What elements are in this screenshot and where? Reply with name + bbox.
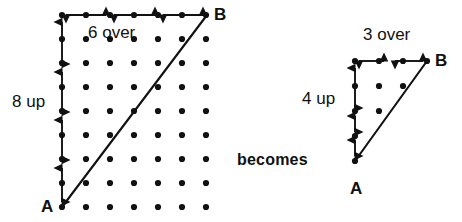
lattice-dot (83, 180, 89, 186)
lattice-dot (179, 204, 185, 210)
lattice-dot (352, 58, 358, 64)
right-point-a-label: A (350, 180, 362, 197)
lattice-dot (131, 84, 137, 90)
lattice-dot (107, 156, 113, 162)
lattice-dot (179, 36, 185, 42)
lattice-dot (83, 84, 89, 90)
lattice-dot (155, 204, 161, 210)
lattice-dot (203, 84, 209, 90)
lattice-dot (352, 108, 358, 114)
lattice-dot (179, 84, 185, 90)
lattice-dot (155, 156, 161, 162)
lattice-dot (203, 180, 209, 186)
lattice-dot (107, 108, 113, 114)
lattice-dot (203, 156, 209, 162)
lattice-dot (131, 60, 137, 66)
lattice-dot (83, 156, 89, 162)
lattice-dot (376, 108, 382, 114)
lattice-dot (203, 108, 209, 114)
lattice-dot (155, 60, 161, 66)
becomes-label: becomes (237, 152, 308, 168)
right-rise-label: 4 up (302, 90, 335, 107)
left-point-b-label: B (214, 6, 226, 23)
lattice-dot (155, 36, 161, 42)
lattice-dot (155, 12, 161, 18)
lattice-dot (352, 133, 358, 139)
lattice-dot (203, 132, 209, 138)
lattice-dot (155, 132, 161, 138)
lattice-dot (107, 132, 113, 138)
lattice-dot (107, 180, 113, 186)
lattice-dot (203, 60, 209, 66)
lattice-dot (400, 83, 406, 89)
lattice-dot (155, 84, 161, 90)
right-point-b-label: B (435, 52, 447, 69)
lattice-dot (376, 83, 382, 89)
lattice-dot (59, 12, 65, 18)
lattice-dot (83, 132, 89, 138)
lattice-dot (179, 156, 185, 162)
lattice-dot (107, 84, 113, 90)
right-run-label: 3 over (363, 26, 410, 43)
lattice-dot (131, 180, 137, 186)
lattice-dot (83, 204, 89, 210)
lattice-dot (203, 204, 209, 210)
lattice-dot (179, 108, 185, 114)
lattice-dot (83, 60, 89, 66)
lattice-dot (107, 12, 113, 18)
lattice-dot (107, 60, 113, 66)
lattice-dot (179, 60, 185, 66)
lattice-dot (155, 180, 161, 186)
right-segment-ab (355, 61, 427, 161)
left-point-a-label: A (41, 198, 53, 215)
lattice-dot (131, 132, 137, 138)
lattice-dot (131, 204, 137, 210)
left-rise-label: 8 up (12, 93, 45, 110)
lattice-dot (179, 180, 185, 186)
lattice-dot (155, 108, 161, 114)
lattice-dot (131, 156, 137, 162)
lattice-dot (179, 132, 185, 138)
left-run-label: 6 over (88, 24, 135, 41)
lattice-dot (107, 204, 113, 210)
lattice-dot (83, 108, 89, 114)
diagram-canvas: 8 up 6 over A B becomes 4 up 3 over A B (0, 0, 462, 222)
lattice-dot (203, 36, 209, 42)
